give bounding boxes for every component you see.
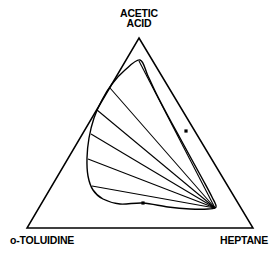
bottom-left-label-o-toluidine: o-TOLUIDINE [10,234,74,246]
bottom-right-label-heptane: HEPTANE [220,234,268,246]
data-point-marker-2 [141,201,144,204]
data-point-marker-1 [184,129,187,132]
ternary-phase-diagram-figure: ACETIC ACID o-TOLUIDINE HEPTANE [0,0,278,255]
apex-label-line2: ACID [127,17,152,29]
ternary-diagram-svg: ACETIC ACID o-TOLUIDINE HEPTANE [0,0,278,255]
